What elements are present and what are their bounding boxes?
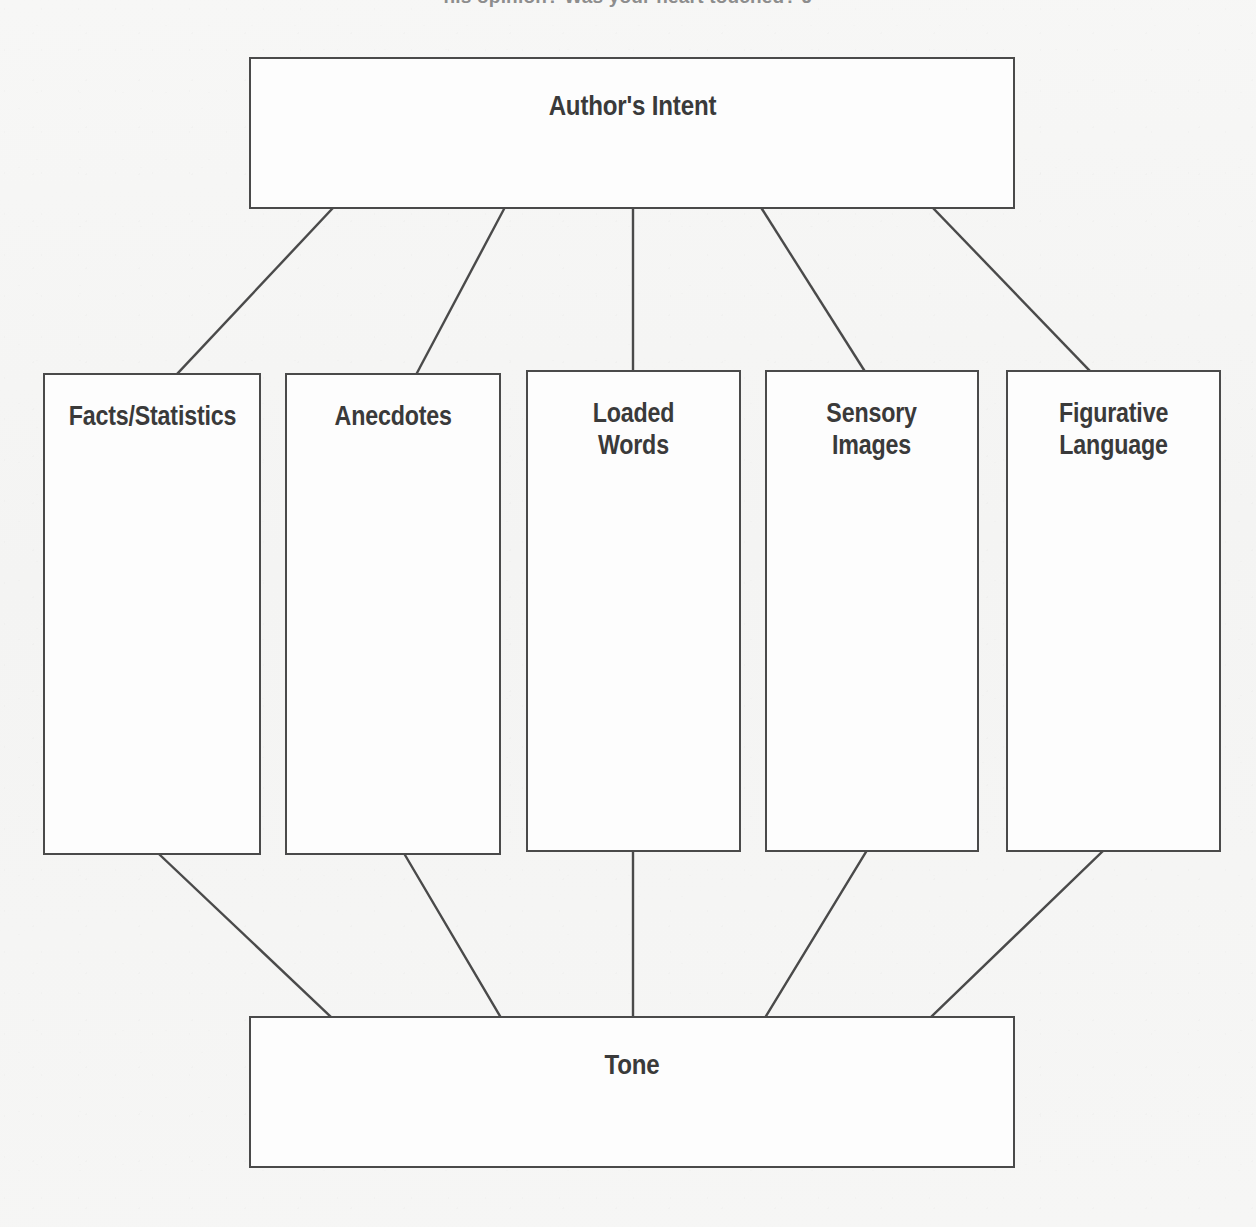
node-sensory-images-label: Sensory Images (827, 372, 917, 462)
node-facts-statistics-label: Facts/Statistics (68, 375, 236, 433)
node-figurative-language[interactable]: Figurative Language (1006, 370, 1221, 852)
node-authors-intent-label: Author's Intent (548, 59, 716, 122)
connector-anecdotes-to-tone (405, 855, 500, 1016)
node-anecdotes-label: Anecdotes (334, 375, 451, 433)
connector-figurative-to-tone (932, 852, 1102, 1016)
node-anecdotes[interactable]: Anecdotes (285, 373, 501, 855)
node-tone[interactable]: Tone (249, 1016, 1015, 1168)
node-figurative-language-label: Figurative Language (1059, 372, 1168, 462)
node-tone-label: Tone (604, 1018, 659, 1081)
node-loaded-words-label: Loaded Words (593, 372, 675, 462)
connector-intent-to-facts (178, 209, 332, 373)
connector-intent-to-sensory (762, 209, 864, 370)
connector-facts-to-tone (160, 855, 330, 1016)
node-sensory-images[interactable]: Sensory Images (765, 370, 979, 852)
graphic-organizer-page: his opinion? Was your heart touched? J A… (0, 0, 1256, 1227)
connector-sensory-to-tone (766, 852, 866, 1016)
node-loaded-words[interactable]: Loaded Words (526, 370, 741, 852)
node-facts-statistics[interactable]: Facts/Statistics (43, 373, 261, 855)
node-authors-intent[interactable]: Author's Intent (249, 57, 1015, 209)
connector-intent-to-figurative (934, 209, 1089, 370)
connector-intent-to-anecdotes (417, 209, 504, 373)
